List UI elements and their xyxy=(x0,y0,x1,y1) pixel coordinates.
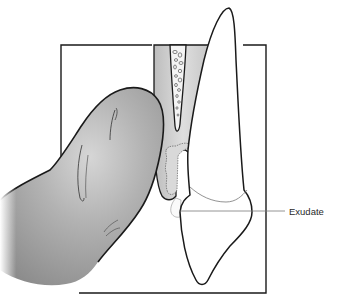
dental-illustration: Exudate xyxy=(0,0,352,308)
finger xyxy=(0,88,164,300)
exudate-label: Exudate xyxy=(289,206,324,217)
